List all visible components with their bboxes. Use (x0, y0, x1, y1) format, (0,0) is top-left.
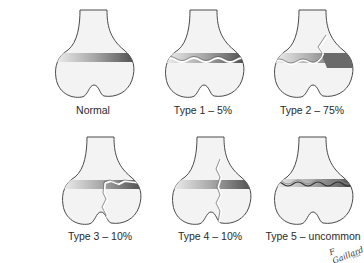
bone-normal (54, 10, 134, 97)
bone-type2 (273, 10, 353, 97)
label-type2: Type 2 – 75% (257, 104, 364, 116)
bone-type5 (273, 137, 353, 224)
bone-type1 (164, 10, 248, 97)
label-normal: Normal (38, 104, 148, 116)
fracture-diagram (0, 0, 364, 263)
label-type1: Type 1 – 5% (148, 104, 258, 116)
label-type4: Type 4 – 10% (155, 230, 265, 242)
label-type3: Type 3 – 10% (45, 230, 155, 242)
bone-type3 (61, 137, 141, 227)
bone-type4 (171, 137, 251, 227)
